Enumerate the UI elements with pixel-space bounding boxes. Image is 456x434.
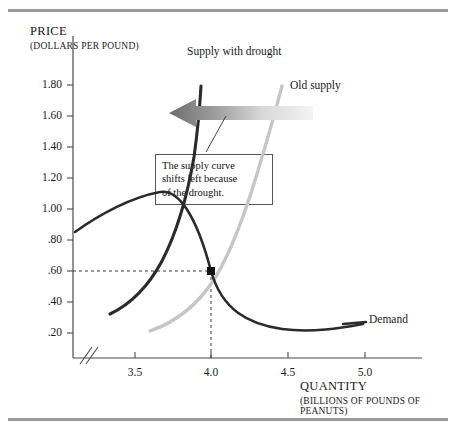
curve-old-supply — [150, 86, 282, 331]
equilibrium-guides — [73, 271, 211, 358]
callout-leader-line — [206, 116, 226, 152]
axis-break-marks — [80, 347, 98, 364]
shift-arrow-icon — [169, 99, 313, 127]
axis-lines — [73, 36, 422, 358]
plot-canvas — [0, 0, 456, 434]
figure-supply-demand-drought: PRICE (DOLLARS PER POUND) QUANTITY (BILL… — [0, 0, 456, 434]
y-axis-ticks — [67, 85, 73, 333]
curve-demand — [75, 221, 160, 288]
supply-drought-label-leader — [183, 55, 201, 86]
x-axis-ticks — [135, 352, 365, 358]
equilibrium-point-marker — [207, 267, 215, 275]
